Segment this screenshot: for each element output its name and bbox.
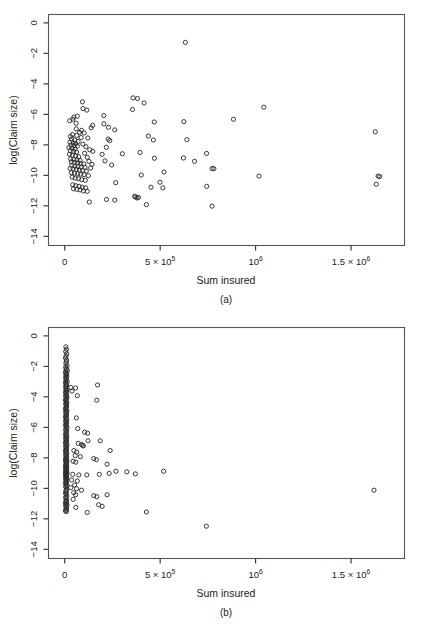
- data-point: [74, 416, 78, 420]
- data-point: [125, 470, 129, 474]
- x-tick-label: 1.5 × 106: [332, 255, 371, 267]
- data-point: [82, 131, 86, 135]
- x-tick-label: 0: [62, 569, 67, 580]
- data-point: [183, 40, 187, 44]
- y-tick-label: 0: [28, 20, 39, 25]
- data-point: [86, 174, 90, 178]
- data-point: [114, 469, 118, 473]
- scatter-plot-a: 0−2−4−6−8−10−12−14 05 × 1051061.5 × 106 …: [0, 0, 421, 313]
- y-axis-a: 0−2−4−6−8−10−12−14: [28, 20, 49, 244]
- data-point: [151, 138, 155, 142]
- data-point: [131, 96, 135, 100]
- data-point: [97, 472, 101, 476]
- plot-frame-a: [49, 15, 405, 246]
- data-point: [106, 125, 110, 129]
- x-axis-b: 05 × 1051061.5 × 106: [62, 559, 370, 580]
- data-point: [113, 198, 117, 202]
- panel-caption-b: (b): [220, 607, 232, 618]
- data-point: [144, 203, 148, 207]
- x-axis-a: 05 × 1051061.5 × 106: [62, 246, 370, 267]
- y-tick-label: −10: [28, 167, 39, 183]
- data-point: [76, 426, 80, 430]
- data-point: [87, 200, 91, 204]
- data-point: [105, 462, 109, 466]
- data-point: [152, 156, 156, 160]
- data-point: [74, 487, 78, 491]
- data-point: [135, 96, 139, 100]
- data-point: [231, 117, 235, 121]
- data-point: [85, 510, 89, 514]
- y-tick-label: −6: [28, 422, 39, 433]
- data-point: [79, 135, 83, 139]
- data-point: [374, 182, 378, 186]
- data-points-b: [63, 345, 376, 529]
- data-point: [86, 136, 90, 140]
- data-point: [75, 394, 79, 398]
- data-point: [71, 459, 75, 463]
- data-point: [162, 170, 166, 174]
- y-tick-label: −8: [28, 139, 39, 150]
- data-point: [84, 145, 88, 149]
- data-point: [162, 469, 166, 473]
- x-tick-label: 1.5 × 106: [332, 568, 371, 580]
- y-tick-label: −2: [28, 48, 39, 59]
- x-tick-label: 106: [248, 568, 263, 580]
- data-point: [204, 151, 208, 155]
- data-point: [114, 181, 118, 185]
- data-point: [113, 128, 117, 132]
- y-tick-label: −6: [28, 109, 39, 120]
- data-point: [110, 163, 114, 167]
- data-point: [80, 100, 84, 104]
- data-point: [81, 106, 85, 110]
- data-point: [74, 460, 78, 464]
- data-point: [142, 101, 146, 105]
- x-tick-label: 106: [248, 255, 263, 267]
- data-point: [139, 173, 143, 177]
- x-axis-label-a: Sum insured: [197, 274, 256, 286]
- data-point: [77, 473, 81, 477]
- data-point: [75, 479, 79, 483]
- data-point: [185, 138, 189, 142]
- y-tick-label: −12: [28, 198, 39, 214]
- data-point: [192, 159, 196, 163]
- data-point: [71, 497, 75, 501]
- data-point: [94, 458, 98, 462]
- data-point: [103, 159, 107, 163]
- data-point: [98, 439, 102, 443]
- data-point: [95, 383, 99, 387]
- x-tick-label: 5 × 105: [145, 568, 176, 580]
- data-point: [74, 505, 78, 509]
- y-tick-label: −14: [28, 541, 39, 557]
- data-point: [138, 150, 142, 154]
- panel-b: 0−2−4−6−8−10−12−14 05 × 1051061.5 × 106 …: [0, 313, 421, 626]
- y-tick-label: −12: [28, 511, 39, 527]
- plot-frame-b: [49, 328, 405, 559]
- data-point: [95, 398, 99, 402]
- data-points-a: [67, 40, 382, 208]
- panel-a: 0−2−4−6−8−10−12−14 05 × 1051061.5 × 106 …: [0, 0, 421, 313]
- data-point: [108, 448, 112, 452]
- data-point: [372, 488, 376, 492]
- y-tick-label: −4: [28, 391, 39, 402]
- data-point: [149, 185, 153, 189]
- data-point: [74, 127, 78, 131]
- data-point: [161, 186, 165, 190]
- data-point: [146, 134, 150, 138]
- data-point: [144, 510, 148, 514]
- data-point: [262, 105, 266, 109]
- data-point: [133, 472, 137, 476]
- data-point: [85, 473, 89, 477]
- data-point: [152, 120, 156, 124]
- data-point: [75, 133, 79, 137]
- data-point: [79, 488, 83, 492]
- data-point: [182, 120, 186, 124]
- data-point: [181, 156, 185, 160]
- data-point: [74, 386, 78, 390]
- data-point: [71, 472, 75, 476]
- scatter-plot-b: 0−2−4−6−8−10−12−14 05 × 1051061.5 × 106 …: [0, 313, 421, 626]
- x-tick-label: 5 × 105: [145, 255, 176, 267]
- y-axis-label-a: log(Claim size): [7, 95, 19, 164]
- data-point: [100, 152, 104, 156]
- y-tick-label: −8: [28, 452, 39, 463]
- data-point: [130, 107, 134, 111]
